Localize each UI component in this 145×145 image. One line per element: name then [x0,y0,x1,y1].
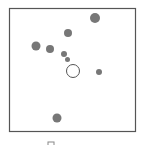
scatter-diagram [0,0,145,145]
legend-swatch [48,142,54,145]
filled-point [90,13,100,23]
filled-point [96,69,102,75]
filled-point [32,42,41,51]
filled-point [65,57,70,62]
filled-point [61,51,67,57]
points-group [32,13,103,123]
open-point [67,65,80,78]
filled-point [64,29,72,37]
filled-point [46,45,54,53]
filled-point [53,114,62,123]
